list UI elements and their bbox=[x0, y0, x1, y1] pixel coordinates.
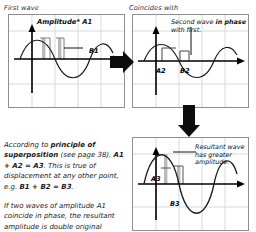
note-second-wave-in-phase: Second wave in phase with first. bbox=[171, 19, 247, 34]
label-amplitude-a1: Amplitude* A1 bbox=[37, 19, 92, 27]
label-b3: B3 bbox=[170, 200, 180, 208]
x-axis-arrowhead bbox=[237, 181, 245, 188]
panel-second-wave: Second wave in phase with first. A2 B2 bbox=[132, 14, 249, 108]
text-paragraph-2: If two waves of amplitude A1 coincide in… bbox=[4, 201, 128, 232]
right-arrow-icon bbox=[110, 51, 134, 77]
y-axis-arrowhead bbox=[29, 24, 36, 32]
caption-coincides-with: Coincides with bbox=[129, 4, 178, 12]
text-bold-equation-b: B1 + B2 = B3 bbox=[19, 183, 71, 191]
caption-first-wave: First wave bbox=[4, 4, 39, 12]
down-arrow-icon bbox=[178, 105, 200, 141]
text-part-2: (see page 38), bbox=[58, 151, 113, 159]
note-text-part-2: with first. bbox=[171, 26, 201, 34]
label-a3: A3 bbox=[151, 175, 161, 183]
y-axis-arrowhead bbox=[153, 147, 160, 155]
text-part-1: According to bbox=[4, 141, 50, 149]
note-text-bold: in phase bbox=[215, 18, 246, 26]
label-b1: B1 bbox=[89, 47, 99, 55]
diagram-canvas: First wave Coincides with bbox=[0, 0, 256, 232]
y-axis-arrowhead bbox=[153, 26, 160, 34]
axes bbox=[138, 31, 239, 95]
label-b2: B2 bbox=[180, 67, 190, 75]
x-axis-arrowhead bbox=[237, 58, 245, 65]
first-wave-plot bbox=[9, 15, 124, 107]
grid-lines bbox=[9, 15, 124, 107]
text-part-4: . bbox=[72, 183, 74, 191]
panel-resultant-wave: Resultant wave has greater amplitude. A3… bbox=[132, 137, 249, 231]
amplitude-highlight-bar bbox=[164, 154, 167, 184]
label-a2: A2 bbox=[156, 67, 166, 75]
panel-first-wave: Amplitude* A1 B1 bbox=[8, 14, 125, 108]
displacement-highlight-bar bbox=[58, 38, 61, 59]
note-resultant-greater-amplitude: Resultant wave has greater amplitude. bbox=[195, 144, 247, 167]
explanatory-text-block: According to principle of superposition … bbox=[4, 140, 128, 232]
